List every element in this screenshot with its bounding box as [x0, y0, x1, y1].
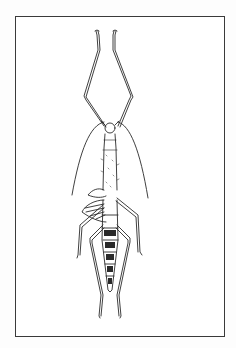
front-legs [84, 30, 133, 127]
head [105, 123, 115, 133]
stick-insect-drawing [0, 0, 236, 348]
abdomen [102, 200, 118, 292]
thorax [103, 134, 117, 190]
